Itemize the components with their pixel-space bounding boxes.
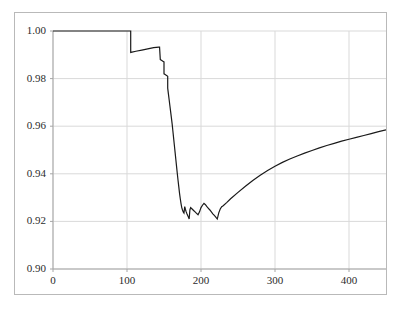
plot-canvas — [15, 13, 386, 294]
x-tick-label-1: 100 — [107, 274, 147, 286]
y-tick-label-0: 0.90 — [15, 262, 46, 274]
chart-frame: 0.900.920.940.960.981.00 0100200300400 — [14, 12, 387, 295]
x-tick-label-2: 200 — [181, 274, 221, 286]
y-tick-label-3: 0.96 — [15, 119, 46, 131]
x-tick-label-0: 0 — [33, 274, 73, 286]
axis-lines-group — [50, 31, 386, 272]
gridlines-group — [53, 31, 386, 269]
chart-figure: 0.900.920.940.960.981.00 0100200300400 — [0, 0, 402, 313]
y-tick-label-5: 1.00 — [15, 24, 46, 36]
data-series-line-0 — [53, 31, 386, 219]
x-tick-label-3: 300 — [255, 274, 295, 286]
y-tick-label-1: 0.92 — [15, 214, 46, 226]
x-tick-label-4: 400 — [329, 274, 369, 286]
y-tick-label-2: 0.94 — [15, 167, 46, 179]
series-group — [53, 31, 386, 219]
y-tick-label-4: 0.98 — [15, 72, 46, 84]
